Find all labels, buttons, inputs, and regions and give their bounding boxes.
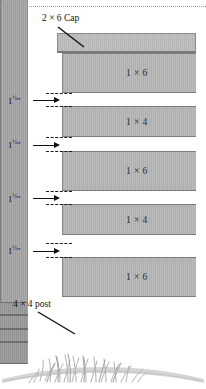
dimension-ext-line-1-top — [46, 93, 72, 94]
fence-board-2-label: 1 × 4 — [126, 117, 148, 127]
cap-callout-leader-line — [52, 24, 122, 60]
dimension-label-3: 1½" — [8, 193, 21, 203]
dimension-ext-line-3-top — [46, 191, 72, 192]
dimension-ext-line-4-top — [46, 243, 72, 244]
cap-callout-label: 2 × 6 Cap — [42, 14, 79, 24]
dimension-label-2: 1½" — [8, 139, 21, 149]
dimension-ext-line-4-bottom — [46, 257, 72, 258]
dimension-arrow-head-3 — [54, 195, 60, 201]
post-gap-segment-2 — [0, 315, 28, 329]
dimension-arrow-shaft-4 — [33, 251, 55, 252]
fence-post — [0, 0, 28, 302]
dimension-label-1: 1½" — [8, 95, 21, 105]
dimension-ext-line-3-bottom — [46, 204, 72, 205]
dimension-label-2-unit: " — [17, 140, 20, 150]
post-callout-leader-line — [30, 308, 110, 344]
fence-board-4-label: 1 × 4 — [126, 215, 148, 225]
dimension-ext-line-1-bottom — [46, 106, 72, 107]
dimension-ext-line-2-top — [46, 137, 72, 138]
dimension-arrow-head-1 — [54, 97, 60, 103]
dimension-arrow-head-4 — [54, 248, 60, 254]
diagram-canvas: 1 × 6 1 × 4 1 × 6 1 × 4 1 × 6 — [0, 0, 206, 389]
fence-board-3-label: 1 × 6 — [126, 166, 148, 176]
dimension-ext-line-2-bottom — [46, 151, 72, 152]
dimension-arrow-head-2 — [54, 142, 60, 148]
dimension-arrow-shaft-3 — [33, 198, 55, 199]
dimension-arrow-shaft-1 — [33, 100, 55, 101]
dimension-label-4-unit: " — [17, 246, 20, 256]
fence-board-1-label: 1 × 6 — [126, 68, 148, 78]
dimension-label-4: 1½" — [8, 245, 21, 255]
fence-board-5-label: 1 × 6 — [126, 272, 148, 282]
dimension-label-3-unit: " — [17, 194, 20, 204]
top-dotted-divider — [0, 6, 206, 7]
dimension-arrow-shaft-2 — [33, 145, 55, 146]
dimension-label-1-unit: " — [17, 96, 20, 106]
